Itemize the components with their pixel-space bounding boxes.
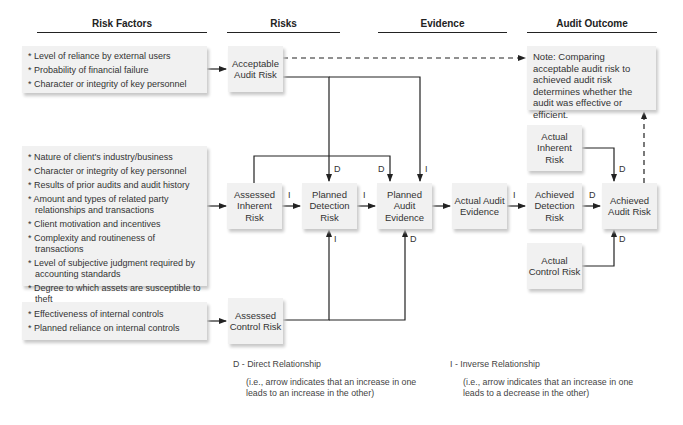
node-label: Planned Detection Risk (302, 189, 357, 224)
edge-label-direct: D (619, 164, 626, 174)
node-label: Actual Audit Evidence (452, 195, 507, 218)
node-acceptable-audit-risk: Acceptable Audit Risk (228, 46, 283, 92)
node-achieved-detection-risk: Achieved Detection Risk (527, 183, 582, 229)
legend-direct: D - Direct Relationship (i.e., arrow ind… (233, 359, 418, 400)
factor-item: Level of reliance by external users (28, 51, 201, 62)
edge-label-inverse: I (425, 164, 428, 174)
node-label: Planned Audit Evidence (377, 189, 432, 224)
node-label: Assessed Inherent Risk (227, 189, 282, 224)
legend-direct-title: D - Direct Relationship (233, 359, 418, 371)
note-box: Note: Comparing acceptable audit risk to… (527, 46, 656, 110)
node-label: Acceptable Audit Risk (228, 58, 283, 81)
node-label: Actual Control Risk (527, 255, 582, 278)
edge-label-direct: D (619, 234, 626, 244)
factor-item: Amount and types of related party relati… (28, 194, 201, 216)
factor-item: Nature of client's industry/business (28, 152, 201, 163)
legend-inverse-title: I - Inverse Relationship (450, 359, 635, 371)
node-label: Assessed Control Risk (228, 310, 283, 333)
edge-label-inverse: I (363, 190, 366, 200)
factor-group-acceptable-risk: Level of reliance by external users Prob… (22, 46, 207, 93)
factor-item: Planned reliance on internal controls (28, 323, 201, 334)
factor-group-control-risk: Effectiveness of internal controls Plann… (22, 302, 207, 340)
node-label: Achieved Detection Risk (527, 189, 582, 224)
edge-label-inverse: I (334, 234, 337, 244)
factor-item: Level of subjective judgment required by… (28, 258, 201, 280)
edge-label-direct: D (334, 164, 341, 174)
node-assessed-inherent-risk: Assessed Inherent Risk (227, 183, 282, 229)
factor-item: Effectiveness of internal controls (28, 309, 201, 320)
legend-direct-desc: (i.e., arrow indicates that an increase … (233, 377, 418, 400)
edge-label-direct: D (410, 234, 417, 244)
edge-label-direct: D (589, 190, 596, 200)
node-label: Actual Inherent Risk (527, 131, 582, 166)
factor-item: Complexity and routineness of transactio… (28, 233, 201, 255)
node-achieved-audit-risk: Achieved Audit Risk (602, 183, 657, 229)
node-actual-inherent-risk: Actual Inherent Risk (527, 125, 582, 171)
node-actual-control-risk: Actual Control Risk (527, 243, 582, 289)
node-planned-audit-evidence: Planned Audit Evidence (377, 183, 432, 229)
edge-label-inverse: I (288, 190, 291, 200)
node-assessed-control-risk: Assessed Control Risk (228, 298, 283, 344)
factor-item: Character or integrity of key personnel (28, 166, 201, 177)
node-label: Achieved Audit Risk (602, 195, 657, 218)
factor-item: Client motivation and incentives (28, 219, 201, 230)
node-planned-detection-risk: Planned Detection Risk (302, 183, 357, 229)
factor-item: Probability of financial failure (28, 65, 201, 76)
edge-label-inverse: I (513, 190, 516, 200)
factor-item: Results of prior audits and audit histor… (28, 180, 201, 191)
factor-item: Character or integrity of key personnel (28, 79, 201, 90)
legend-inverse-desc: (i.e., arrow indicates that an increase … (450, 377, 635, 400)
factor-group-inherent-risk: Nature of client's industry/business Cha… (22, 146, 207, 286)
legend-inverse: I - Inverse Relationship (i.e., arrow in… (450, 359, 635, 400)
edge-label-direct: D (378, 164, 385, 174)
node-actual-audit-evidence: Actual Audit Evidence (452, 183, 507, 229)
